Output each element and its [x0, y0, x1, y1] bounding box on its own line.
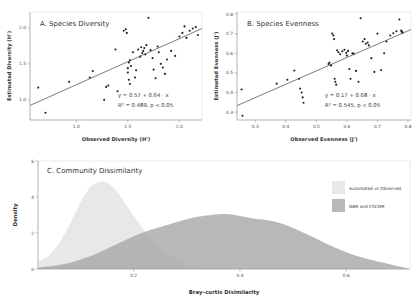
data-point — [365, 43, 367, 45]
data-point — [157, 46, 159, 48]
data-point — [373, 71, 375, 73]
data-point — [103, 99, 105, 101]
x-tick-label: 1.0 — [73, 124, 80, 129]
data-point — [360, 17, 362, 19]
data-point — [332, 35, 334, 37]
y-tick-label: 1.5 — [19, 61, 26, 66]
data-point — [166, 58, 168, 60]
data-point — [68, 81, 70, 83]
data-point — [153, 69, 155, 71]
x-tick-label: 0.6 — [343, 273, 350, 278]
data-point — [398, 18, 400, 20]
data-point — [130, 65, 132, 67]
data-point — [105, 86, 107, 88]
data-point — [162, 66, 164, 68]
data-point — [331, 33, 333, 35]
panel-a-svg: 1.01.52.01.01.52.0 A. Species Diversity … — [0, 0, 209, 155]
data-point — [350, 78, 352, 80]
data-point — [346, 55, 348, 57]
data-point — [370, 57, 372, 59]
data-point — [357, 81, 359, 83]
x-tick-label: 2.0 — [176, 124, 183, 129]
y-tick-label: 0.7 — [226, 31, 233, 36]
panel-a-xlabel: Observed Diversity (H') — [82, 136, 150, 143]
data-point — [123, 30, 125, 32]
data-point — [395, 30, 397, 32]
data-point — [126, 32, 128, 34]
data-point — [334, 81, 336, 83]
panel-a-frame — [30, 12, 202, 120]
data-point — [355, 70, 357, 72]
data-point — [178, 35, 180, 37]
x-tick-label: 0.3 — [252, 124, 259, 129]
panel-a-axes: 1.01.52.01.01.52.0 — [19, 12, 202, 129]
data-point — [341, 50, 343, 52]
data-point — [347, 50, 349, 52]
y-tick-label: 0.6 — [226, 51, 233, 56]
figure-container: 1.01.52.01.01.52.0 A. Species Diversity … — [0, 0, 418, 303]
x-tick-label: 0.4 — [282, 124, 289, 129]
data-point — [140, 46, 142, 48]
panel-b-frame — [237, 12, 411, 120]
panel-a-title: A. Species Diversity — [40, 20, 109, 28]
x-tick-label: 0.5 — [313, 124, 320, 129]
data-point — [129, 83, 131, 85]
x-tick-label: 0.8 — [404, 124, 411, 129]
y-tick-label: 0.3 — [226, 110, 233, 115]
data-point — [92, 70, 94, 72]
panel-b-ylabel: Estimated Evenness (J') — [213, 32, 220, 101]
y-tick-label: 0 — [31, 267, 34, 272]
data-point — [337, 51, 339, 53]
data-point — [186, 37, 188, 39]
data-point — [127, 71, 129, 73]
data-point — [155, 77, 157, 79]
data-point — [197, 34, 199, 36]
x-tick-label: 0.2 — [130, 273, 137, 278]
panel-a-equation: y = 0.57 + 0.64 · x — [118, 92, 169, 99]
data-point — [152, 57, 154, 59]
data-point — [158, 51, 160, 53]
data-point — [299, 88, 301, 90]
data-point — [143, 47, 145, 49]
panel-species-evenness: 0.30.40.50.60.70.80.30.40.50.60.70.8 B. … — [205, 0, 418, 155]
panel-b-fit-line — [237, 30, 411, 106]
data-point — [241, 89, 243, 91]
data-point — [192, 28, 194, 30]
data-point — [37, 87, 39, 89]
x-tick-label: 0.7 — [374, 124, 381, 129]
data-point — [142, 50, 144, 52]
data-point — [286, 79, 288, 81]
data-point — [44, 112, 46, 114]
x-tick-label: 0.4 — [236, 273, 243, 278]
data-point — [114, 48, 116, 50]
data-point — [293, 69, 295, 71]
data-point — [335, 84, 337, 86]
x-tick-label: 1.5 — [124, 124, 131, 129]
data-point — [141, 52, 143, 54]
data-point — [181, 32, 183, 34]
panel-b-svg: 0.30.40.50.60.70.80.30.40.50.60.70.8 B. … — [205, 0, 418, 155]
x-tick-label: 0.6 — [343, 124, 350, 129]
legend-label-automated-vs-observed: Automated vs Observed — [349, 186, 401, 191]
data-point — [164, 73, 166, 75]
data-point — [174, 55, 176, 57]
data-point — [380, 69, 382, 71]
data-point — [376, 33, 378, 35]
data-point — [348, 68, 350, 70]
data-point — [345, 52, 347, 54]
data-point — [145, 44, 147, 46]
data-point — [125, 28, 127, 30]
data-point — [241, 115, 243, 117]
legend-swatch-automated-vs-observed — [332, 181, 345, 194]
panel-a-points — [37, 17, 199, 114]
data-point — [328, 62, 330, 64]
data-point — [367, 41, 369, 43]
data-point — [107, 84, 109, 86]
panel-community-dissimilarity: 0.20.40.60246 C. Community Dissimilarity… — [0, 153, 418, 303]
y-tick-label: 0.8 — [226, 12, 233, 17]
data-point — [137, 48, 139, 50]
legend-label-gbr-and-cscmr: GBR and CSCMR — [349, 204, 385, 209]
data-point — [343, 49, 345, 51]
panel-species-diversity: 1.01.52.01.01.52.0 A. Species Diversity … — [0, 0, 209, 155]
data-point — [364, 38, 366, 40]
